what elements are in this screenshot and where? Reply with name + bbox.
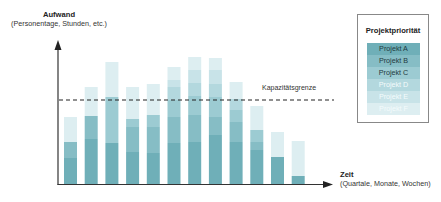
bar-segment-projekt-c xyxy=(126,119,139,127)
bar-segment-projekt-c xyxy=(188,96,201,115)
bar-segment-projekt-a xyxy=(105,143,118,184)
bar-segment-projekt-c xyxy=(105,97,118,143)
y-axis-arrow-icon xyxy=(55,40,62,50)
bar-segment-projekt-f xyxy=(250,106,263,130)
bar-segment-projekt-b xyxy=(64,142,77,158)
bar-segment-projekt-b xyxy=(209,117,222,135)
bar-segment-projekt-d xyxy=(209,84,222,97)
bar-segment-projekt-b xyxy=(188,115,201,142)
bar-segment-projekt-a xyxy=(168,143,181,184)
legend-rows: Projekt A Projekt B Projekt C Projekt D … xyxy=(367,43,420,115)
legend-item-projekt-e: Projekt E xyxy=(367,91,420,103)
x-axis-title: Zeit xyxy=(340,170,431,179)
legend-item-projekt-f: Projekt F xyxy=(367,103,420,115)
bar-segment-projekt-a xyxy=(188,142,201,184)
bar-segment-projekt-f xyxy=(168,67,181,80)
bar-segment-projekt-d xyxy=(168,87,181,100)
bar-segment-projekt-e xyxy=(168,80,181,87)
bar-segment-projekt-f xyxy=(126,87,139,119)
bar-segment-projekt-c xyxy=(147,115,160,127)
x-axis-arrow-icon xyxy=(323,181,333,188)
bar-segment-projekt-f xyxy=(85,87,98,116)
bar-segment-projekt-a xyxy=(126,152,139,184)
bar-segment-projekt-f xyxy=(105,62,118,97)
x-axis-subtitle: (Quartale, Monate, Wochen) xyxy=(340,179,431,188)
bar-segment-projekt-d xyxy=(188,83,201,96)
x-axis-label: Zeit (Quartale, Monate, Wochen) xyxy=(340,170,431,188)
bar-segment-projekt-a xyxy=(209,135,222,184)
legend-box: Projektpriorität Projekt A Projekt B Pro… xyxy=(357,14,429,123)
bar-segment-projekt-c xyxy=(250,130,263,142)
bar-segment-projekt-a xyxy=(147,153,160,184)
bar-segment-projekt-b xyxy=(230,122,243,142)
bar-segment-projekt-a xyxy=(292,176,305,184)
bar-segment-projekt-f xyxy=(188,57,201,70)
bar-segment-projekt-d xyxy=(230,99,243,110)
capacity-label: Kapazitätsgrenze xyxy=(262,84,316,91)
bar-segment-projekt-b xyxy=(85,116,98,139)
legend-item-projekt-d: Projekt D xyxy=(367,79,420,91)
bar-segment-projekt-b xyxy=(147,127,160,153)
bar-segment-projekt-f xyxy=(64,117,77,142)
legend-title: Projektpriorität xyxy=(358,26,428,35)
bar-segment-projekt-b xyxy=(168,117,181,143)
bar-segment-projekt-a xyxy=(230,142,243,184)
bar-segment-projekt-b xyxy=(250,142,263,150)
legend-item-projekt-a: Projekt A xyxy=(367,43,420,55)
bar-segment-projekt-c xyxy=(230,110,243,122)
bar-segment-projekt-f xyxy=(271,132,284,157)
legend-item-projekt-b: Projekt B xyxy=(367,55,420,67)
bar-segment-projekt-f xyxy=(230,82,243,99)
bar-segment-projekt-a xyxy=(64,158,77,184)
bar-segment-projekt-c xyxy=(168,100,181,117)
legend-item-projekt-c: Projekt C xyxy=(367,67,420,79)
bar-segment-projekt-e xyxy=(209,70,222,84)
bar-segment-projekt-b xyxy=(126,127,139,152)
bar-segment-projekt-a xyxy=(85,139,98,184)
bar-segment-projekt-e xyxy=(188,70,201,83)
bar-segment-projekt-f xyxy=(292,141,305,176)
bar-segment-projekt-a xyxy=(250,150,263,184)
bar-segment-projekt-f xyxy=(209,58,222,70)
bars-group xyxy=(64,57,305,184)
bar-segment-projekt-a xyxy=(271,157,284,184)
